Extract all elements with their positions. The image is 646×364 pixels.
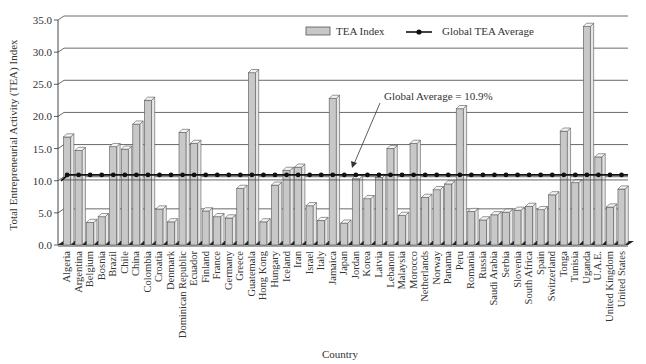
x-tick-label: South Africa — [523, 251, 534, 305]
average-marker-icon — [527, 173, 532, 178]
average-marker-icon — [608, 173, 613, 178]
bar — [514, 207, 524, 245]
bar — [375, 174, 385, 245]
average-marker-icon — [284, 173, 289, 178]
bar — [271, 182, 281, 245]
legend-label-tea-index: TEA Index — [336, 25, 385, 37]
x-tick-label: Iran — [292, 250, 303, 268]
average-marker-icon — [388, 173, 393, 178]
average-marker-icon — [365, 173, 370, 178]
grid-bevel — [58, 16, 64, 20]
average-marker-icon — [400, 173, 405, 178]
average-marker-icon — [76, 173, 81, 178]
x-tick-label: Saudi Arabia — [488, 251, 499, 306]
average-marker-icon — [180, 173, 185, 178]
x-tick-label: Germany — [223, 250, 234, 290]
bar — [75, 147, 85, 245]
x-tick-label: Morocco — [408, 251, 419, 289]
average-marker-icon — [538, 173, 543, 178]
x-tick-label: Israel — [304, 251, 315, 274]
x-tick-label: Hong Kong — [257, 250, 268, 300]
average-marker-icon — [88, 173, 93, 178]
bar — [502, 209, 512, 245]
x-tick-label: U.A.E. — [592, 251, 603, 280]
x-tick-label: Chile — [119, 251, 130, 274]
average-marker-icon — [504, 173, 509, 178]
average-marker-icon — [411, 173, 416, 178]
grid-bevel — [58, 48, 64, 52]
average-marker-icon — [238, 173, 243, 178]
x-tick-label: China — [130, 251, 141, 276]
bar — [87, 219, 97, 245]
x-tick-label: Japan — [338, 250, 349, 275]
bar-series-tea-index — [64, 23, 629, 245]
y-tick-label: 25.0 — [33, 78, 53, 90]
bar — [537, 206, 547, 245]
grid-bevel — [58, 80, 64, 84]
x-tick-label: Italy — [315, 250, 326, 270]
x-tick-label: Peru — [454, 250, 465, 270]
x-tick-label: Norway — [431, 250, 442, 285]
average-marker-icon — [515, 173, 520, 178]
x-tick-label: Tunisia — [569, 251, 580, 282]
average-marker-icon — [481, 173, 486, 178]
average-marker-icon — [573, 173, 578, 178]
x-tick-label: Spain — [535, 250, 546, 275]
x-tick-label: Croatia — [153, 251, 164, 282]
bar — [422, 194, 432, 245]
x-tick-label: Romania — [465, 251, 476, 289]
average-marker-icon — [169, 173, 174, 178]
bar — [98, 214, 108, 245]
bar — [329, 95, 339, 245]
average-marker-icon — [319, 173, 324, 178]
tea-index-chart: 0.05.010.015.020.025.030.035.0 AlgeriaAr… — [0, 0, 646, 364]
legend-marker-icon — [416, 29, 421, 34]
bar — [410, 140, 420, 245]
average-marker-icon — [446, 173, 451, 178]
average-marker-icon — [203, 173, 208, 178]
x-tick-label: Russia — [477, 251, 488, 279]
x-tick-label: Finland — [200, 250, 211, 283]
bar — [387, 145, 397, 245]
grid-bevel — [58, 145, 64, 149]
bar — [191, 140, 201, 245]
average-marker-icon — [192, 173, 197, 178]
bar — [306, 203, 316, 245]
average-marker-icon — [377, 173, 382, 178]
x-tick-label: Jamaica — [327, 251, 338, 285]
average-marker-icon — [469, 173, 474, 178]
x-tick-label: Tonga — [558, 251, 569, 277]
average-marker-icon — [584, 173, 589, 178]
bar — [583, 23, 593, 245]
bar — [595, 154, 605, 245]
x-tick-label: Latvia — [373, 251, 384, 278]
x-tick-label: Guatemala — [246, 251, 257, 297]
average-marker-icon — [111, 173, 116, 178]
x-tick-label: Malaysia — [396, 251, 407, 290]
bar — [468, 208, 478, 245]
legend-swatch-tea-index — [306, 27, 330, 35]
y-tick-label: 30.0 — [33, 46, 53, 58]
average-marker-icon — [261, 173, 266, 178]
average-marker-icon — [249, 173, 254, 178]
x-tick-label: Colombia — [142, 251, 153, 293]
average-marker-icon — [342, 173, 347, 178]
x-tick-label: Algeria — [61, 251, 72, 283]
average-marker-icon — [423, 173, 428, 178]
bar — [526, 203, 536, 245]
bar — [433, 187, 443, 245]
bar — [341, 220, 351, 245]
bar — [214, 214, 224, 245]
annotation-global-average: Global Average = 10.9% — [384, 90, 493, 102]
x-tick-label: Denmark — [165, 250, 176, 290]
bar — [560, 128, 570, 245]
x-tick-label: Argentina — [73, 251, 84, 293]
y-tick-label: 15.0 — [33, 143, 53, 155]
average-marker-icon — [134, 173, 139, 178]
y-tick-label: 0.0 — [38, 239, 52, 251]
x-tick-label: Serbia — [500, 251, 511, 278]
bar — [225, 215, 235, 245]
bar — [64, 134, 74, 245]
bar — [549, 192, 559, 245]
bar — [202, 208, 212, 245]
